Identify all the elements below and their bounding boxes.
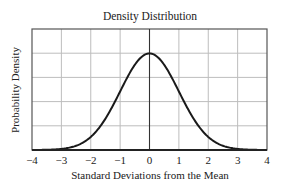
chart-title: Density Distribution bbox=[103, 10, 197, 23]
density-chart: Density Distribution −4−3−2−101234 Stand… bbox=[0, 0, 284, 191]
x-tick-label: 2 bbox=[206, 154, 212, 166]
x-tick-label: −3 bbox=[56, 154, 68, 166]
x-tick-label: 0 bbox=[147, 154, 153, 166]
x-tick-label: 1 bbox=[176, 154, 182, 166]
x-tick-label: 4 bbox=[264, 154, 270, 166]
x-tick-label: −2 bbox=[85, 154, 97, 166]
x-tick-label: 3 bbox=[235, 154, 241, 166]
x-tick-label: −1 bbox=[114, 154, 126, 166]
x-tick-label: −4 bbox=[26, 154, 38, 166]
x-axis-label: Standard Deviations from the Mean bbox=[71, 169, 229, 181]
x-tick-labels: −4−3−2−101234 bbox=[26, 154, 270, 166]
y-axis-label: Probability Density bbox=[9, 47, 21, 133]
